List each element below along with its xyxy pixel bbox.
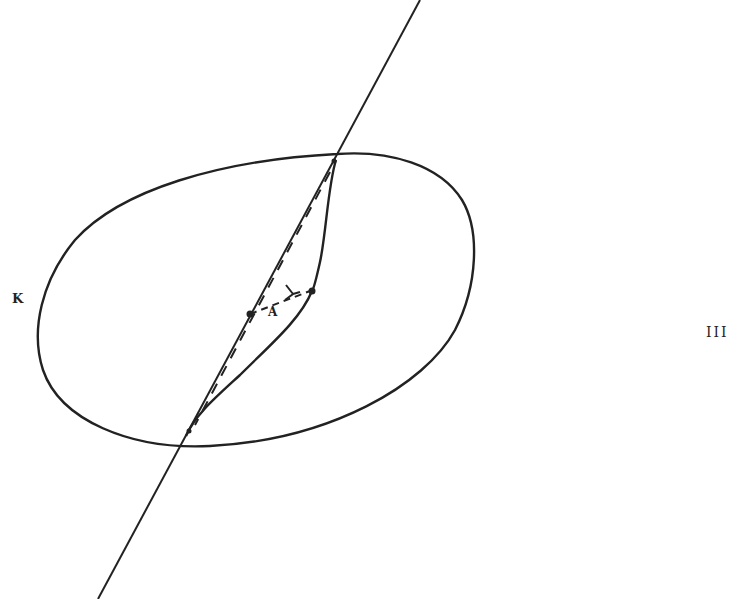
point-on-s-curve [309, 288, 316, 295]
curve-label-k: K [12, 291, 23, 306]
point-a [247, 311, 254, 318]
intersection-point-upper [332, 159, 337, 164]
diagram-svg [0, 0, 740, 599]
closed-curve-k [38, 153, 474, 446]
intersection-point-lower [187, 429, 192, 434]
secant-line [98, 0, 420, 599]
figure-canvas: K A III [0, 0, 740, 599]
arrowhead-icon [285, 285, 300, 300]
point-label-a: A [268, 305, 277, 319]
figure-number-label: III [706, 324, 729, 340]
